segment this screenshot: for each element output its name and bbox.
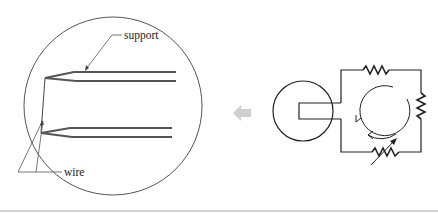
wire-label: wire (64, 166, 84, 178)
magnified-view: support wire (18, 17, 202, 195)
resistor-right-icon (417, 93, 425, 119)
bulb-circle (273, 81, 333, 141)
current-loop-arrow (360, 86, 410, 136)
circuit-wire (389, 70, 421, 93)
circuit-wire (341, 119, 372, 152)
lower-support (41, 128, 172, 137)
diagram-canvas: support wire (0, 0, 438, 213)
leader-arrowhead-icon (40, 120, 44, 125)
circuit-wire (341, 70, 363, 103)
circuit-diagram (273, 66, 425, 165)
variable-resistor-arrow (371, 140, 395, 165)
resistor-top-icon (363, 66, 389, 74)
bottom-divider (0, 210, 438, 212)
support-label: support (124, 29, 159, 42)
left-arrow-icon (233, 105, 251, 121)
upper-support (45, 72, 176, 81)
loop-arrowhead-icon (368, 131, 373, 139)
bulb-stem (299, 103, 341, 119)
circuit-wire (399, 119, 421, 152)
magnifier-circle (24, 17, 202, 195)
support-callout: support (85, 29, 159, 71)
